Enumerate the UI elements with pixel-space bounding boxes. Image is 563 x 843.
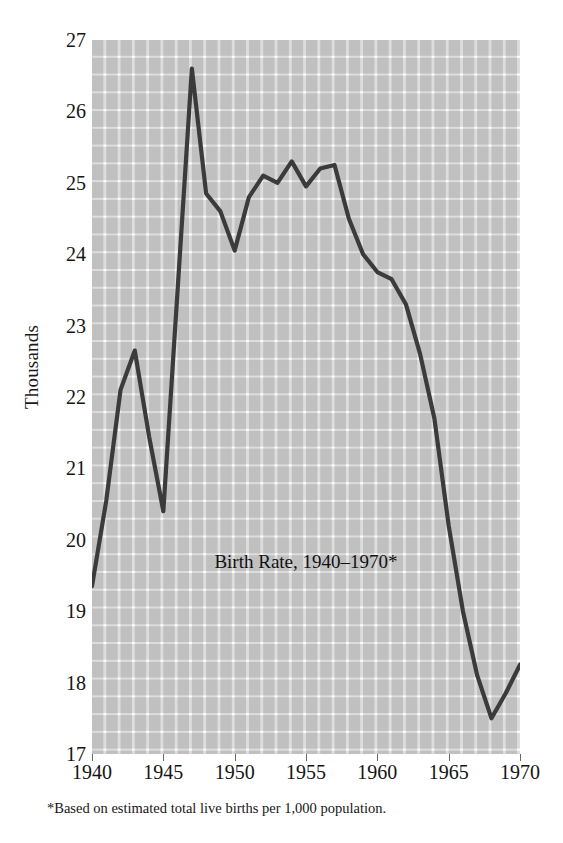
y-axis-tick-label: 27 — [12, 30, 86, 50]
x-axis-tick-mark — [377, 754, 378, 761]
birth-rate-chart-figure: Thousands 2726252423222120191817 Birth R… — [0, 0, 563, 843]
x-axis-tick-label: 1950 — [195, 762, 275, 782]
y-axis-tick-label: 19 — [12, 601, 86, 621]
y-axis-tick-label: 21 — [12, 458, 86, 478]
x-axis-tick-mark — [235, 754, 236, 761]
x-axis-tick-labels: 1940194519501955196019651970 — [0, 762, 563, 792]
chart-footnote: *Based on estimated total live births pe… — [47, 800, 386, 817]
x-axis-tick-mark — [306, 754, 307, 761]
y-axis-tick-label: 18 — [12, 673, 86, 693]
x-axis-tick-label: 1945 — [123, 762, 203, 782]
chart-title: Birth Rate, 1940–1970* — [92, 551, 520, 573]
birth-rate-line — [92, 69, 520, 719]
y-axis-tick-label: 20 — [12, 530, 86, 550]
x-axis-tick-label: 1965 — [409, 762, 489, 782]
x-axis-tick-mark — [520, 754, 521, 761]
x-axis-tick-mark — [163, 754, 164, 761]
y-axis-tick-label: 22 — [12, 387, 86, 407]
data-line-series — [92, 40, 520, 754]
y-axis-tick-labels: 2726252423222120191817 — [0, 0, 86, 843]
x-axis-tick-label: 1960 — [337, 762, 417, 782]
plot-area — [92, 40, 520, 754]
x-axis-tick-label: 1955 — [266, 762, 346, 782]
x-axis-tick-mark — [449, 754, 450, 761]
x-axis-tick-label: 1940 — [52, 762, 132, 782]
x-axis-tick-mark — [92, 754, 93, 761]
y-axis-tick-label: 23 — [12, 316, 86, 336]
y-axis-tick-label: 25 — [12, 173, 86, 193]
x-axis-tick-label: 1970 — [480, 762, 560, 782]
y-axis-tick-label: 26 — [12, 101, 86, 121]
y-axis-tick-label: 24 — [12, 244, 86, 264]
